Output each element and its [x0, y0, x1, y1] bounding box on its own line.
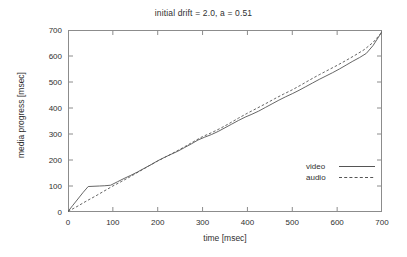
y-tick-label: 500 [30, 78, 62, 87]
x-tick-label: 500 [286, 218, 299, 227]
legend-label-video: video [306, 162, 333, 171]
plot-area [68, 30, 382, 212]
y-tick-label: 400 [30, 104, 62, 113]
chart-legend: video audio [306, 161, 376, 183]
y-tick-label: 300 [30, 130, 62, 139]
x-tick-label: 600 [330, 218, 343, 227]
y-tick-label: 700 [30, 26, 62, 35]
x-tick-label: 0 [66, 218, 70, 227]
chart-title: initial drift = 2.0, a = 0.51 [0, 8, 407, 18]
series-line-audio [68, 32, 382, 211]
x-tick-label: 300 [196, 218, 209, 227]
x-axis-title: time [msec] [68, 233, 382, 243]
y-tick-label: 100 [30, 182, 62, 191]
legend-item-video: video [306, 161, 376, 172]
legend-sample-audio-icon [338, 173, 376, 182]
y-axis-title: media progress [msec] [16, 45, 26, 185]
legend-sample-video-icon [338, 162, 376, 171]
legend-label-audio: audio [306, 173, 333, 182]
x-tick-label: 100 [106, 218, 119, 227]
chart-figure: initial drift = 2.0, a = 0.51 media prog… [0, 0, 407, 257]
x-tick-label: 400 [241, 218, 254, 227]
series-line-video [68, 31, 382, 211]
y-tick-label: 600 [30, 52, 62, 61]
series-lines [68, 30, 382, 212]
y-tick-label: 200 [30, 156, 62, 165]
legend-item-audio: audio [306, 172, 376, 183]
y-tick-label: 0 [30, 208, 62, 217]
x-tick-label: 700 [375, 218, 388, 227]
x-tick-label: 200 [151, 218, 164, 227]
